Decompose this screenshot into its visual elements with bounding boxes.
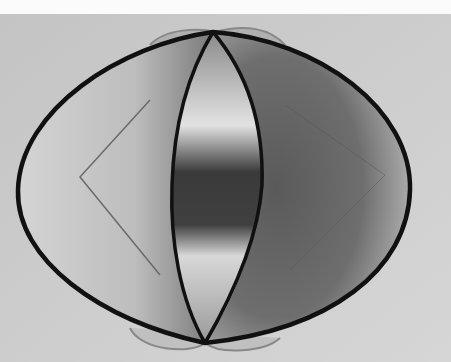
wire-frame-sculpture [0, 0, 451, 362]
top-margin [0, 0, 451, 14]
photograph [0, 0, 451, 362]
